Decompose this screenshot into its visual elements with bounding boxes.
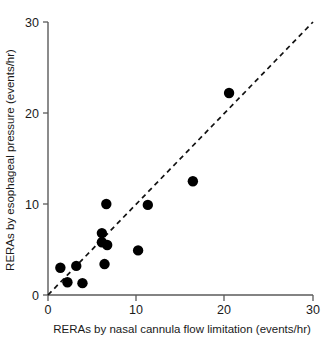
- data-point: [102, 240, 112, 250]
- data-point: [133, 245, 143, 255]
- data-point: [143, 200, 153, 210]
- x-axis-tick-label-20: 20: [217, 303, 231, 317]
- x-axis-title: RERAs by nasal cannula flow limitation (…: [53, 323, 311, 335]
- y-axis-tick-label-20: 20: [25, 107, 39, 121]
- data-point: [224, 88, 234, 98]
- data-point: [188, 176, 198, 186]
- plot-canvas: 30 20 10 0 0 10 20 30 RERAs by nasal can…: [0, 0, 331, 340]
- data-point: [101, 199, 111, 209]
- data-point-group: [55, 88, 234, 289]
- data-point: [62, 277, 72, 287]
- x-axis-tick-label-30: 30: [306, 303, 320, 317]
- data-point: [97, 228, 107, 238]
- y-axis-tick-label-0: 0: [32, 289, 39, 303]
- y-axis-tick-label-10: 10: [25, 198, 39, 212]
- identity-reference-line: [48, 22, 313, 295]
- y-axis-tick-label-30: 30: [25, 16, 39, 30]
- x-axis-tick-label-0: 0: [45, 303, 52, 317]
- scatter-plot-figure: 30 20 10 0 0 10 20 30 RERAs by nasal can…: [0, 0, 331, 340]
- data-point: [55, 263, 65, 273]
- data-point: [71, 261, 81, 271]
- y-axis-title: RERAs by esophageal pressure (events/hr): [4, 49, 16, 271]
- data-point: [99, 259, 109, 269]
- axes-group: [43, 22, 313, 301]
- x-axis-tick-label-10: 10: [129, 303, 143, 317]
- data-point: [77, 278, 87, 288]
